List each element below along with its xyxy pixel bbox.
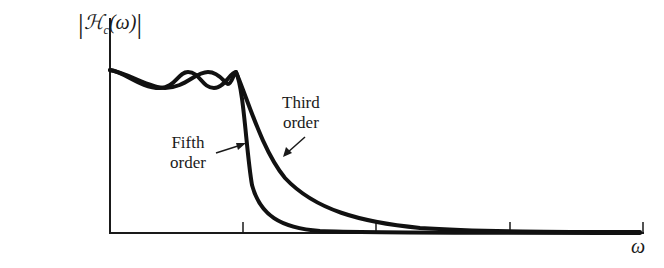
third-line1: Third	[282, 93, 320, 113]
fifth-arrow-icon	[216, 143, 246, 153]
x-axis-label: ω	[631, 236, 645, 256]
y-symbol: ℋ	[84, 11, 104, 33]
fifth-order-annotation: Fifth order	[170, 133, 206, 173]
third-line2: order	[282, 113, 320, 133]
fifth-line1: Fifth	[170, 133, 206, 153]
third-arrow-icon	[283, 137, 305, 157]
y-axis-label: |ℋc(ω)|	[78, 12, 142, 40]
chart-canvas	[0, 0, 664, 268]
y-arg: (ω)	[109, 11, 136, 33]
abs-bar-right: |	[136, 8, 142, 39]
fifth-line2: order	[170, 153, 206, 173]
third-order-annotation: Third order	[282, 93, 320, 133]
